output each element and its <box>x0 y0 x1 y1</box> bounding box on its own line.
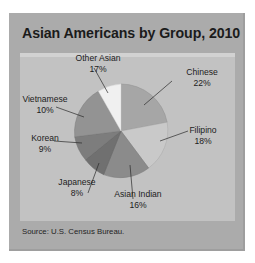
callout-vietnamese-value: 10% <box>20 105 76 116</box>
callout-japanese: Japanese 8% <box>46 177 108 198</box>
callout-vietnamese: Vietnamese 10% <box>20 94 76 115</box>
callout-filipino: Filipino 18% <box>178 125 228 146</box>
callout-korean-value: 9% <box>20 144 72 155</box>
callout-chinese-value: 22% <box>176 78 228 89</box>
figure-card: Asian Americans by Group, 2010 <box>9 13 245 251</box>
callout-chinese: Chinese 22% <box>176 67 228 88</box>
callout-asian-indian: Asian Indian 16% <box>102 189 174 210</box>
callout-other-asian: Other Asian 17% <box>60 53 136 74</box>
callout-asian-indian-value: 16% <box>102 200 174 211</box>
callout-asian-indian-label: Asian Indian <box>114 189 161 199</box>
title-bar: Asian Americans by Group, 2010 <box>9 13 245 53</box>
callout-filipino-label: Filipino <box>189 125 216 135</box>
pie-chart-figure: Asian Americans by Group, 2010 <box>0 0 255 263</box>
page-title: Asian Americans by Group, 2010 <box>22 25 240 41</box>
callout-korean: Korean 9% <box>20 133 72 154</box>
callout-vietnamese-label: Vietnamese <box>22 94 67 104</box>
source-note: Source: U.S. Census Bureau. <box>22 227 124 236</box>
callout-japanese-label: Japanese <box>58 177 95 187</box>
plot-area: Other Asian 17% Vietnamese 10% Korean 9%… <box>20 53 235 221</box>
callout-japanese-value: 8% <box>46 188 108 199</box>
callout-other-asian-value: 17% <box>60 64 136 75</box>
callout-korean-label: Korean <box>31 133 59 143</box>
callout-chinese-label: Chinese <box>186 67 218 77</box>
callout-other-asian-label: Other Asian <box>76 53 121 63</box>
callout-filipino-value: 18% <box>178 136 228 147</box>
